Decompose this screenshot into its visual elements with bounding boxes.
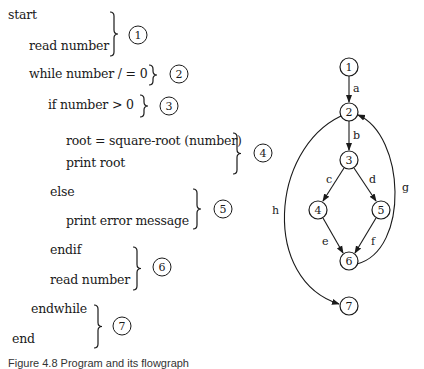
edge-label-g: g (402, 181, 409, 194)
brace-icon (132, 246, 144, 291)
figure-caption: Figure 4.8 Program and its flowgraph (8, 357, 189, 369)
edge-label-c: c (326, 173, 332, 186)
block-number-1: 1 (129, 26, 148, 45)
svg-text:7: 7 (346, 300, 353, 313)
edge-label-d: d (369, 173, 376, 186)
block-number-7: 7 (113, 317, 132, 336)
edge-label-h: h (272, 204, 279, 217)
svg-text:6: 6 (346, 255, 353, 268)
brace-icon (109, 11, 121, 57)
brace-icon (232, 132, 244, 175)
svg-text:2: 2 (346, 106, 353, 119)
block-number-4: 4 (254, 144, 273, 163)
graph-node-5: 5 (372, 201, 390, 219)
edge-label-f: f (371, 235, 376, 248)
graph-node-7: 7 (340, 297, 358, 315)
brace-icon (192, 188, 204, 230)
svg-text:5: 5 (378, 204, 385, 217)
block-number-5: 5 (214, 200, 233, 219)
edge-g (357, 115, 395, 264)
graph-node-6: 6 (340, 252, 358, 270)
brace-icon (148, 64, 160, 86)
block-number-3: 3 (160, 97, 179, 116)
edge-label-a: a (353, 82, 360, 95)
brace-icon (139, 94, 151, 118)
edge-label-e: e (322, 235, 329, 248)
graph-node-2: 2 (340, 103, 358, 121)
svg-text:1: 1 (346, 61, 353, 74)
brace-icon (93, 304, 105, 349)
edge-label-b: b (353, 129, 360, 142)
graph-node-3: 3 (340, 151, 358, 169)
svg-text:4: 4 (315, 204, 322, 217)
block-number-6: 6 (153, 258, 172, 277)
graph-node-4: 4 (309, 201, 327, 219)
graph-node-1: 1 (340, 58, 358, 76)
block-number-2: 2 (170, 65, 189, 84)
svg-text:3: 3 (346, 154, 353, 167)
